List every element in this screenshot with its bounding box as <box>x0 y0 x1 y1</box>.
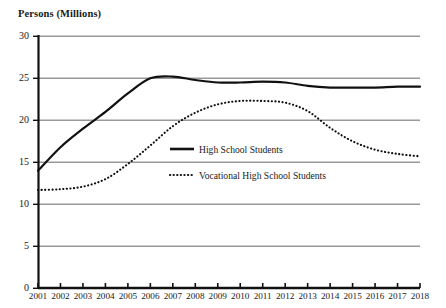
chart-container: Persons (Millions) <box>0 0 446 308</box>
series-line-high-school-students <box>38 76 420 170</box>
legend-label-vocational-high-school-students: Vocational High School Students <box>199 171 326 181</box>
y-tick-marks <box>33 36 38 288</box>
gridlines <box>38 36 420 246</box>
y-tick-label: 5 <box>5 241 29 251</box>
y-tick-label: 10 <box>5 199 29 209</box>
legend-label-high-school-students: High School Students <box>199 145 283 155</box>
y-tick-label: 30 <box>5 31 29 41</box>
y-tick-label: 15 <box>5 157 29 167</box>
y-tick-label: 20 <box>5 115 29 125</box>
y-tick-label: 25 <box>5 73 29 83</box>
x-tick-label: 2018 <box>406 292 434 301</box>
